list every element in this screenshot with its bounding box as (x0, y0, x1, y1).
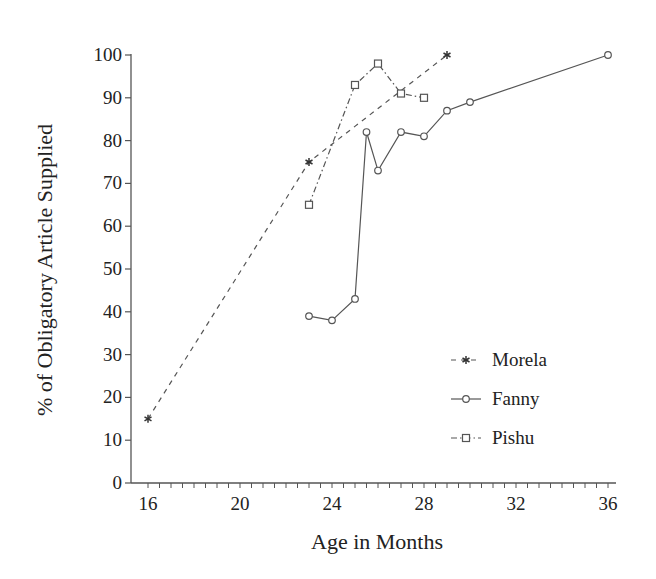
x-tick-label: 16 (139, 493, 158, 514)
y-tick-label: 80 (103, 130, 122, 151)
fanny-marker-circle-icon (398, 129, 405, 136)
pishu-marker-square-icon (421, 94, 428, 101)
pishu-marker-square-icon (375, 60, 382, 67)
y-tick-label: 20 (103, 386, 122, 407)
y-tick-label: 10 (103, 429, 122, 450)
fanny-marker-circle-icon (363, 129, 370, 136)
y-tick-label: 50 (103, 258, 122, 279)
y-tick-label: 40 (103, 301, 122, 322)
fanny-marker-circle-icon (329, 317, 336, 324)
legend-label: Fanny (492, 388, 540, 409)
y-tick-label: 90 (103, 87, 122, 108)
y-tick-label: 100 (94, 44, 123, 65)
x-axis: 162024283236 (131, 483, 618, 514)
fanny-marker-circle-icon (375, 167, 382, 174)
pishu-marker-square-icon (352, 81, 359, 88)
morela-marker-asterisk-icon (444, 51, 451, 59)
legend-pishu-marker-square-icon (463, 435, 470, 442)
morela-marker-asterisk-icon (306, 158, 313, 166)
y-tick-label: 0 (113, 472, 123, 493)
x-tick-label: 24 (323, 493, 343, 514)
y-axis: 0102030405060708090100 (94, 44, 132, 493)
y-tick-label: 70 (103, 172, 122, 193)
series-fanny (306, 52, 612, 324)
line-chart: 0102030405060708090100 162024283236 % of… (0, 0, 656, 579)
fanny-marker-circle-icon (421, 133, 428, 140)
legend-item-pishu: Pishu (451, 427, 535, 448)
legend-label: Morela (492, 349, 547, 370)
pishu-marker-square-icon (398, 90, 405, 97)
legend-fanny-marker-circle-icon (463, 396, 470, 403)
y-tick-label: 60 (103, 215, 122, 236)
pishu-marker-square-icon (306, 201, 313, 208)
fanny-marker-circle-icon (467, 99, 474, 106)
fanny-marker-circle-icon (352, 296, 359, 303)
y-axis-title: % of Obligatory Article Supplied (32, 124, 57, 416)
x-tick-label: 28 (415, 493, 434, 514)
y-tick-label: 30 (103, 344, 122, 365)
legend-label: Pishu (492, 427, 535, 448)
series-morela (145, 51, 451, 423)
x-axis-title: Age in Months (311, 529, 443, 554)
x-tick-label: 32 (507, 493, 526, 514)
fanny-marker-circle-icon (605, 52, 612, 59)
legend-item-morela: Morela (451, 349, 547, 370)
legend-item-fanny: Fanny (451, 388, 540, 409)
fanny-marker-circle-icon (444, 107, 451, 114)
legend: MorelaFannyPishu (451, 349, 547, 448)
x-tick-label: 36 (599, 493, 618, 514)
fanny-marker-circle-icon (306, 313, 313, 320)
x-tick-label: 20 (231, 493, 250, 514)
